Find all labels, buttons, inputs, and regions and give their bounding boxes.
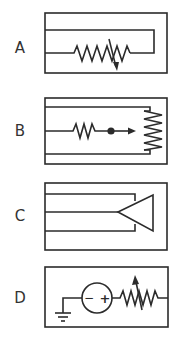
diagram-c-top-line	[45, 194, 135, 201]
diagram-b-spring-element	[144, 111, 162, 150]
diagram-d-arrow-head-icon	[132, 275, 139, 285]
diagram-c-frame	[45, 183, 167, 250]
diagram-a	[45, 13, 167, 73]
diagram-c-bottom-line	[45, 224, 135, 231]
diagram-b-arrow-head-icon	[128, 128, 136, 135]
diagram-canvas: − +	[0, 0, 180, 343]
diagram-b-bottom-wire	[45, 150, 150, 154]
diagram-a-loop-wire	[45, 30, 154, 53]
diagram-a-zigzag-resistor	[45, 46, 130, 61]
diagram-b-zigzag-resistor	[45, 124, 110, 138]
diagram-a-frame	[45, 13, 167, 73]
diagram-d-ground-wire	[63, 298, 82, 313]
diagram-d: − +	[45, 267, 168, 327]
diagram-c	[45, 183, 167, 250]
source-plus-sign: +	[100, 291, 111, 306]
diagram-b-top-wire	[45, 107, 150, 111]
source-minus-sign: −	[84, 291, 94, 305]
diagram-a-arrow-head-icon	[113, 62, 119, 71]
diagram-b	[45, 98, 167, 164]
